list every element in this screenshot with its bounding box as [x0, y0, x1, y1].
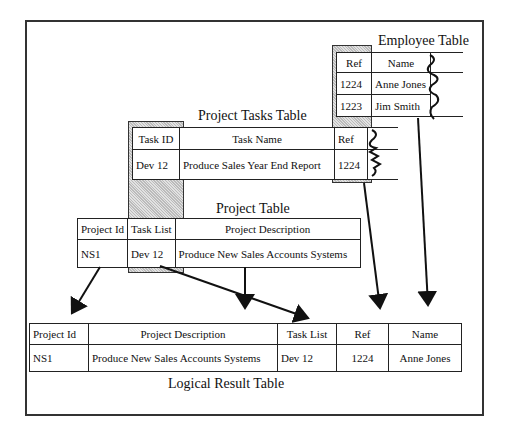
- arrow: [364, 183, 380, 308]
- arrow: [160, 266, 308, 318]
- arrows-layer: [0, 0, 509, 446]
- arrow: [72, 267, 100, 313]
- wavy-edge: [370, 130, 380, 176]
- arrow: [418, 118, 428, 305]
- wavy-edge: [428, 55, 439, 119]
